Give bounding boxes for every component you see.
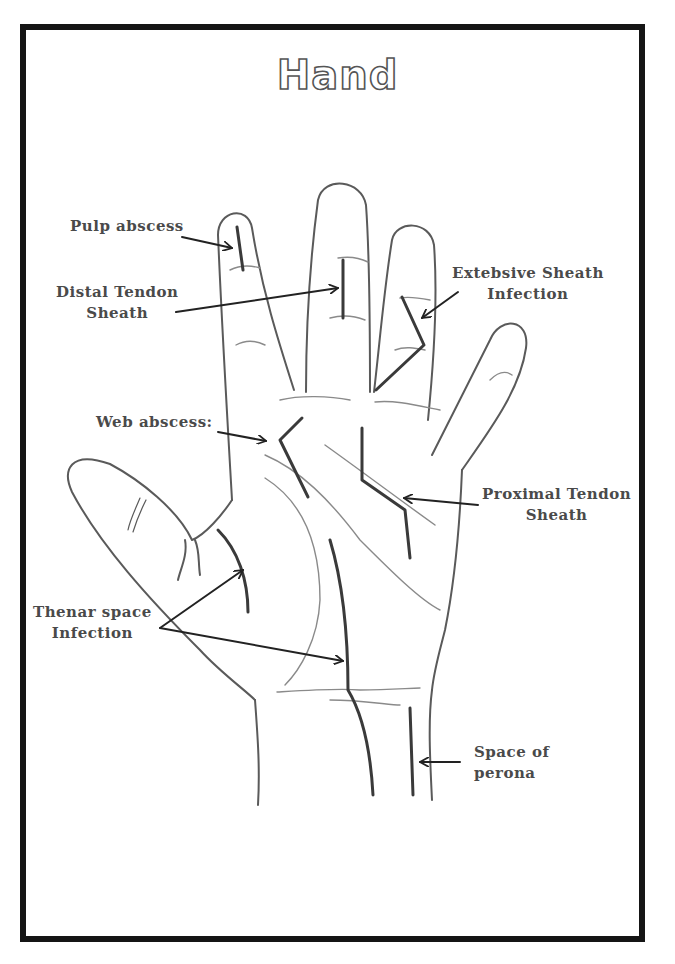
- label-thenar-space-infection: Thenar space Infection: [33, 602, 152, 644]
- label-line: Sheath: [56, 303, 179, 324]
- midpalmar-mark: [330, 540, 373, 795]
- label-web-abscess: Web abscess:: [96, 412, 213, 433]
- thenar-arrow-1: [160, 570, 243, 628]
- thenar-space-mark: [218, 530, 248, 612]
- web-abscess-arrow: [218, 432, 266, 441]
- pulp-abscess-arrow: [182, 237, 232, 248]
- label-space-of-perona: Space of perona: [474, 742, 549, 784]
- proximal-tendon-mark: [362, 428, 410, 558]
- label-proximal-tendon-sheath: Proximal Tendon Sheath: [482, 484, 631, 526]
- label-line: Infection: [33, 623, 152, 644]
- thenar-arrow-2: [160, 628, 343, 661]
- hand-drawing: [0, 0, 675, 964]
- label-line: Infection: [452, 284, 604, 305]
- label-distal-tendon-sheath: Distal Tendon Sheath: [56, 282, 179, 324]
- web-abscess-mark: [280, 418, 308, 497]
- label-line: Extebsive Sheath: [452, 263, 604, 284]
- space-of-perona-mark: [410, 708, 413, 795]
- label-line: Distal Tendon: [56, 282, 179, 303]
- label-pulp-abscess: Pulp abscess: [70, 216, 184, 237]
- distal-tendon-arrow: [176, 288, 338, 312]
- palm-creases: [230, 257, 512, 705]
- label-line: Sheath: [482, 505, 631, 526]
- pulp-abscess-mark: [237, 227, 243, 270]
- label-line: Space of: [474, 742, 549, 763]
- label-extensive-sheath-infection: Extebsive Sheath Infection: [452, 263, 604, 305]
- infection-markings: [218, 227, 424, 795]
- label-line: Proximal Tendon: [482, 484, 631, 505]
- label-line: Web abscess:: [96, 412, 213, 433]
- proximal-tendon-arrow: [404, 498, 478, 505]
- leader-arrows: [160, 237, 478, 762]
- label-line: Pulp abscess: [70, 216, 184, 237]
- label-line: Thenar space: [33, 602, 152, 623]
- label-line: perona: [474, 763, 549, 784]
